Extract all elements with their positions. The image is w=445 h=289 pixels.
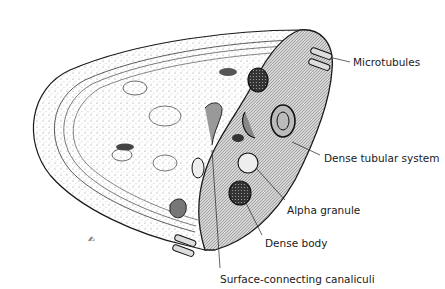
label-microtubules: Microtubules — [353, 56, 420, 68]
label-dense-body: Dense body — [265, 237, 327, 249]
label-dense-tubular-system: Dense tubular system — [324, 152, 440, 164]
label-surface-connecting-canaliculi: Surface-connecting canaliculi — [220, 273, 375, 285]
alpha-granule-shape — [238, 153, 258, 173]
granule-outline — [123, 81, 147, 95]
label-alpha-granule: Alpha granule — [287, 204, 360, 216]
platelet-diagram: ✍ — [0, 0, 445, 289]
dense-body-shape — [229, 181, 251, 205]
artist-signature: ✍ — [88, 235, 95, 244]
